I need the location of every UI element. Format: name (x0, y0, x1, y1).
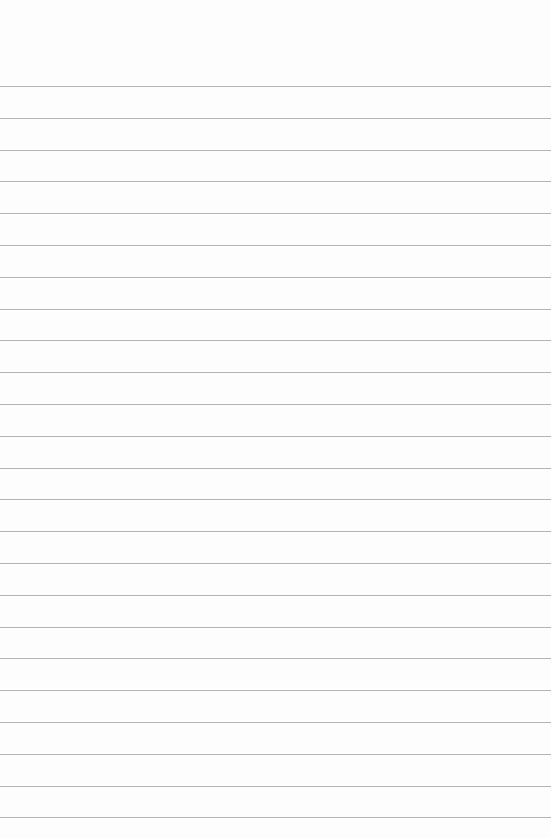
ruled-line (0, 277, 551, 278)
ruled-line (0, 309, 551, 310)
ruled-line (0, 595, 551, 596)
ruled-line (0, 436, 551, 437)
ruled-line (0, 786, 551, 787)
ruled-line (0, 404, 551, 405)
ruled-line (0, 658, 551, 659)
ruled-line (0, 245, 551, 246)
ruled-line (0, 563, 551, 564)
ruled-line (0, 499, 551, 500)
ruled-line (0, 181, 551, 182)
ruled-line (0, 627, 551, 628)
ruled-line (0, 340, 551, 341)
ruled-line (0, 531, 551, 532)
ruled-line (0, 372, 551, 373)
ruled-line (0, 86, 551, 87)
ruled-line (0, 213, 551, 214)
lined-paper-sheet (0, 0, 551, 838)
ruled-line (0, 817, 551, 818)
ruled-line (0, 690, 551, 691)
ruled-line (0, 150, 551, 151)
ruled-line (0, 118, 551, 119)
ruled-line (0, 468, 551, 469)
ruled-line (0, 722, 551, 723)
ruled-line (0, 754, 551, 755)
